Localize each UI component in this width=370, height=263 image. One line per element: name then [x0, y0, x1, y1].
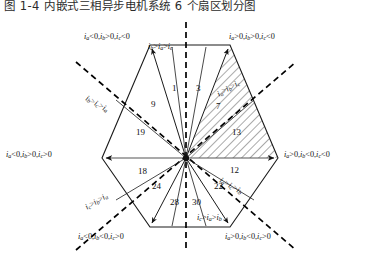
condition-left: ia<0,ib>0,ic>0	[6, 151, 52, 159]
sector-number-12: 12	[230, 166, 239, 175]
sector-number-24: 24	[152, 182, 161, 191]
ordering-bottom: ic>ia>ib	[197, 214, 222, 222]
condition-top-left: ia<0,ib>0,ic<0	[84, 33, 130, 41]
condition-bottom-right: ia>0,ib<0,ic>0	[225, 233, 271, 241]
sector-number-30: 30	[192, 198, 201, 207]
sector-number-7: 7	[216, 102, 221, 111]
sector-number-3: 3	[196, 84, 201, 93]
ordering-top: ib>ia>ic	[148, 43, 173, 51]
figure-canvas: 图 1-4 内嵌式三相异步电机系统 6 个扇区划分图	[0, 0, 370, 263]
sector-number-1: 1	[172, 84, 177, 93]
sector-number-19: 19	[136, 128, 145, 137]
condition-bottom-left: ia<0,ib<0,ic>0	[78, 233, 124, 241]
condition-right: ia>0,ib<0,ic<0	[284, 151, 330, 159]
sector-number-13: 13	[232, 128, 241, 137]
origin-node	[183, 155, 189, 161]
sector-number-28: 28	[170, 198, 179, 207]
sector-number-22: 22	[214, 182, 223, 191]
hexagon-vector-diagram	[0, 0, 370, 263]
condition-top-right: ia>0,ib>0,ic<0	[229, 33, 275, 41]
sector-number-18: 18	[138, 167, 147, 176]
sector-number-9: 9	[151, 100, 156, 109]
hatched-sector	[186, 45, 278, 158]
